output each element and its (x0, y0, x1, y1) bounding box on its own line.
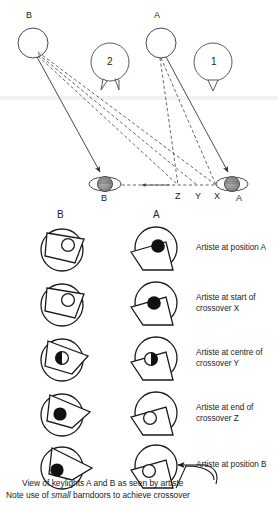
artiste-head-a (216, 177, 248, 192)
crossover-b-to-x (38, 52, 216, 185)
keylight-b-symbol (18, 28, 48, 58)
keylight-a-view-row4 (131, 392, 177, 435)
crossover-point-y-label: Y (195, 191, 201, 201)
artiste-head-b (89, 177, 121, 192)
figure-note-line-1: View of keylights A and B as seen by art… (22, 477, 183, 489)
row-caption-1-line1: Artiste at position A (196, 243, 266, 252)
column-header-b: B (57, 209, 64, 220)
fixture-1-label: 1 (211, 56, 217, 67)
figure-canvas: B A 2 1 B A Z Y X B A (0, 0, 278, 507)
top-plan-diagram (0, 0, 278, 205)
figure-note-line-2: Note use of small barndoors to achieve c… (6, 489, 190, 501)
keylight-b-label: B (26, 10, 32, 20)
crossover-point-z-label: Z (175, 191, 181, 201)
row-caption-2-line1: Artiste at start of (196, 293, 256, 302)
row-caption-2: Artiste at start of crossover X (196, 293, 278, 314)
row-caption-2-line2: crossover X (196, 304, 239, 313)
fixture-2-barndoor-right (115, 79, 119, 90)
figure-note-2-prefix: Note use of (6, 490, 51, 500)
keylight-b-view-row4 (41, 394, 90, 436)
row-caption-1: Artiste at position A (196, 243, 278, 254)
fixture-1-barndoor (208, 80, 218, 91)
figure-note-2-suffix: barndoors to achieve crossover (71, 490, 190, 500)
figure-note-2-emphasis: small (51, 490, 71, 500)
row-caption-3-line2: crossover Y (196, 359, 239, 368)
crossover-point-x-label: X (214, 191, 220, 201)
keylight-a-label: A (154, 10, 160, 20)
keylight-a-view-row3 (131, 337, 177, 380)
head-a-label: A (236, 193, 242, 203)
row-caption-4-line2: crossover Z (196, 414, 239, 423)
row-caption-4-line1: Artiste at end of (196, 403, 253, 412)
keylight-a-view-row2 (131, 282, 177, 325)
fixture-2-barndoor-left (101, 79, 107, 90)
column-header-a: A (153, 209, 160, 220)
keylight-b-view-row1 (41, 229, 84, 271)
keylight-b-view-row2 (41, 284, 84, 326)
head-b-label: B (101, 193, 107, 203)
figure-note-1-text: View of keylights A and B as seen by art… (22, 478, 183, 488)
keylight-a-view-row1 (131, 227, 177, 270)
row-caption-3-line1: Artiste at centre of (196, 348, 262, 357)
keylight-a-symbol (146, 28, 176, 58)
fixture-2-label: 2 (107, 56, 113, 67)
beam-b-to-head-b (37, 57, 100, 172)
crossover-a-to-z (160, 58, 178, 185)
row-caption-5: Artiste at position B (196, 460, 278, 471)
row-caption-4: Artiste at end of crossover Z (196, 403, 278, 424)
background-band (0, 96, 278, 100)
row-caption-3: Artiste at centre of crossover Y (196, 348, 278, 369)
keylight-b-view-row3 (41, 339, 88, 381)
row-caption-5-line1: Artiste at position B (196, 460, 267, 469)
